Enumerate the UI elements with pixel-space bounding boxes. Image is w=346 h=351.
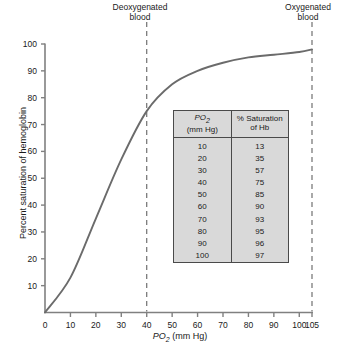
x-tick-label-80: 80 [237, 320, 259, 330]
table-cell-po2: 70 [174, 214, 231, 226]
table-cell-saturation: 85 [231, 190, 288, 202]
table-row: 5085 [174, 190, 288, 202]
table-cell-po2: 60 [174, 202, 231, 214]
table-cell-po2: 20 [174, 153, 231, 165]
table-cell-saturation: 13 [231, 137, 288, 153]
table-cell-saturation: 96 [231, 238, 288, 250]
saturation-table-head: PO2 (mm Hg) % Saturation of Hb [174, 111, 288, 137]
table-header-row: PO2 (mm Hg) % Saturation of Hb [174, 111, 288, 137]
x-tick-label-90: 90 [263, 320, 285, 330]
table-row: 8095 [174, 226, 288, 238]
table-row: 4075 [174, 177, 288, 189]
saturation-table: PO2 (mm Hg) % Saturation of Hb 101320353… [174, 111, 288, 262]
table-cell-saturation: 35 [231, 153, 288, 165]
table-row: 2035 [174, 153, 288, 165]
table-header-saturation-line2: of Hb [250, 123, 269, 132]
table-row: 9096 [174, 238, 288, 250]
table-cell-po2: 100 [174, 250, 231, 262]
table-row: 6090 [174, 202, 288, 214]
x-axis-label: PO2 (mm Hg) [80, 331, 280, 343]
x-tick-label-20: 20 [85, 320, 107, 330]
oxygen-hemoglobin-dissociation-figure: Deoxygenated blood Oxygenated blood Perc… [0, 0, 346, 351]
x-tick-label-0: 0 [34, 320, 56, 330]
table-cell-po2: 40 [174, 177, 231, 189]
x-tick-label-60: 60 [187, 320, 209, 330]
y-tick-label-20: 20 [15, 254, 37, 264]
table-row: 3057 [174, 165, 288, 177]
table-header-po2-main: PO [195, 113, 207, 122]
x-tick-label-50: 50 [161, 320, 183, 330]
table-cell-saturation: 90 [231, 202, 288, 214]
table-row: 7093 [174, 214, 288, 226]
table-row: 1013 [174, 137, 288, 153]
y-tick-label-80: 80 [15, 93, 37, 103]
x-tick-label-40: 40 [136, 320, 158, 330]
x-tick-label-10: 10 [59, 320, 81, 330]
table-header-po2-units: (mm Hg) [187, 125, 218, 134]
table-cell-po2: 30 [174, 165, 231, 177]
x-axis-label-main: PO [153, 331, 166, 341]
y-tick-label-60: 60 [15, 146, 37, 156]
table-header-saturation-line1: % Saturation [237, 114, 283, 123]
x-tick-label-105: 105 [301, 320, 323, 330]
table-cell-po2: 50 [174, 190, 231, 202]
table-header-saturation: % Saturation of Hb [231, 111, 288, 137]
x-tick-label-30: 30 [110, 320, 132, 330]
table-header-po2: PO2 (mm Hg) [174, 111, 231, 137]
table-row: 10097 [174, 250, 288, 262]
y-tick-label-10: 10 [15, 281, 37, 291]
table-cell-po2: 10 [174, 137, 231, 153]
y-tick-label-90: 90 [15, 66, 37, 76]
table-cell-po2: 80 [174, 226, 231, 238]
inset-data-table: PO2 (mm Hg) % Saturation of Hb 101320353… [173, 110, 289, 263]
y-tick-label-50: 50 [15, 173, 37, 183]
table-cell-saturation: 93 [231, 214, 288, 226]
table-cell-saturation: 75 [231, 177, 288, 189]
table-header-po2-sub: 2 [206, 117, 210, 124]
y-tick-label-30: 30 [15, 227, 37, 237]
table-cell-saturation: 95 [231, 226, 288, 238]
x-tick-label-70: 70 [212, 320, 234, 330]
x-axis-label-units: (mm Hg) [170, 331, 208, 341]
y-tick-label-70: 70 [15, 120, 37, 130]
saturation-table-body: 1013203530574075508560907093809590961009… [174, 137, 288, 262]
table-cell-po2: 90 [174, 238, 231, 250]
y-tick-label-40: 40 [15, 200, 37, 210]
table-cell-saturation: 97 [231, 250, 288, 262]
y-tick-label-100: 100 [15, 39, 37, 49]
table-cell-saturation: 57 [231, 165, 288, 177]
